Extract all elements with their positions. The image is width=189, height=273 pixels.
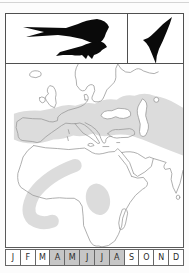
month-cell-jan: J — [5, 249, 21, 266]
denmark-outline — [84, 94, 88, 100]
month-cell-jul: J — [94, 249, 110, 266]
month-cell-sep: S — [124, 249, 140, 266]
arctic-coast — [118, 64, 159, 74]
range-band-mediterranean-asia — [14, 94, 183, 156]
arabia-outline — [122, 152, 154, 177]
sri-lanka — [176, 195, 180, 199]
month-cell-nov: N — [153, 249, 169, 266]
page-top-rule — [0, 2, 189, 3]
britain-outline — [45, 86, 56, 108]
flying-swift-cell — [128, 14, 183, 63]
red-sea-african-shore — [119, 156, 132, 177]
flying-swift-silhouette-icon — [128, 14, 183, 63]
month-cell-may: M — [64, 249, 80, 266]
perched-swallows-cell — [6, 14, 128, 63]
month-cell-mar: M — [35, 249, 51, 266]
perched-swallows-silhouette-icon — [6, 14, 127, 63]
distribution-map — [5, 63, 184, 248]
month-cell-apr: A — [49, 249, 65, 266]
east-africa-coast — [102, 176, 148, 247]
sicily-outline — [88, 143, 94, 146]
range-west-africa — [29, 165, 75, 222]
month-cell-dec: D — [168, 249, 184, 266]
month-cell-aug: A — [109, 249, 125, 266]
month-cell-oct: O — [138, 249, 154, 266]
south-asia-coast — [153, 158, 183, 193]
month-cell-jun: J — [79, 249, 95, 266]
madagascar-outline — [119, 209, 128, 230]
iceland-outline — [29, 71, 41, 78]
aral-sea — [154, 97, 159, 102]
bird-silhouette-panel — [5, 13, 184, 64]
range-central-africa — [82, 181, 113, 218]
month-cell-feb: F — [20, 249, 36, 266]
distribution-map-svg — [6, 64, 183, 247]
ireland-outline — [39, 97, 45, 103]
month-calendar-bar: J F M A M J J A S O N D — [5, 249, 184, 266]
scandinavia-coast — [75, 64, 118, 102]
